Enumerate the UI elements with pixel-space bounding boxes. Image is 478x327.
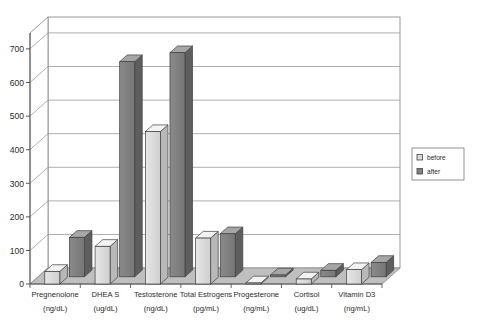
bar-chart-3d: 0 100 200 300 400 500 600 700 Pregnenolo… bbox=[0, 0, 478, 327]
x-tick-label-name: Progesterone bbox=[233, 290, 279, 299]
x-tick-marks bbox=[30, 284, 382, 288]
bar-front-face bbox=[95, 246, 110, 284]
bar-front-face bbox=[271, 275, 286, 277]
legend[interactable]: before after bbox=[412, 148, 464, 180]
bar-front-face bbox=[296, 279, 311, 284]
x-tick-label-unit: (pg/mL) bbox=[193, 304, 220, 313]
bar-front-face bbox=[196, 238, 211, 284]
bar-side-face bbox=[185, 46, 193, 277]
y-tick-label: 400 bbox=[10, 145, 25, 155]
y-tick-label: 100 bbox=[10, 246, 25, 256]
left-wall bbox=[30, 17, 48, 284]
y-tick-label: 0 bbox=[19, 279, 24, 289]
chart-container: 0 100 200 300 400 500 600 700 Pregnenolo… bbox=[0, 0, 478, 327]
x-axis-labels: Pregnenolone(ng/dL)DHEA S(ug/dL)Testoste… bbox=[31, 290, 375, 313]
bar-side-face bbox=[84, 231, 92, 277]
legend-label-after: after bbox=[427, 168, 441, 175]
bar-side-face bbox=[160, 125, 168, 284]
y-tick-marks bbox=[26, 49, 30, 284]
x-tick-label-unit: (ng/mL) bbox=[243, 304, 270, 313]
bar-front-face bbox=[321, 270, 336, 276]
bar-front-face bbox=[69, 237, 84, 276]
y-tick-label: 700 bbox=[10, 44, 25, 54]
y-tick-label: 200 bbox=[10, 212, 25, 222]
bar-side-face bbox=[211, 231, 219, 284]
y-tick-label: 300 bbox=[10, 179, 25, 189]
bar-front-face bbox=[347, 270, 362, 284]
x-tick-label-unit: (ug/dL) bbox=[295, 304, 320, 313]
bar-front-face bbox=[170, 53, 185, 277]
bar-front-face bbox=[246, 283, 261, 284]
bar-front-face bbox=[45, 271, 60, 284]
x-tick-label-unit: (ng/dL) bbox=[43, 304, 68, 313]
legend-swatch-before bbox=[417, 155, 423, 161]
bar-front-face bbox=[220, 234, 235, 277]
bar-front-face bbox=[145, 132, 160, 284]
x-tick-label-name: Testosterone bbox=[134, 290, 177, 299]
bar-side-face bbox=[110, 240, 118, 284]
legend-swatch-after bbox=[417, 169, 423, 175]
x-tick-label-unit: (ng/dL) bbox=[144, 304, 169, 313]
x-tick-label-name: Vitamin D3 bbox=[338, 290, 375, 299]
bar-side-face bbox=[235, 227, 243, 277]
legend-item-before[interactable]: before bbox=[417, 154, 446, 161]
x-tick-label-name: Total Estrogens bbox=[180, 290, 233, 299]
x-tick-label-name: Pregnenolone bbox=[31, 290, 78, 299]
legend-label-before: before bbox=[427, 154, 446, 161]
x-tick-label-name: Cortisol bbox=[294, 290, 320, 299]
legend-item-after[interactable]: after bbox=[417, 168, 441, 175]
x-tick-label-unit: (ng/mL) bbox=[344, 304, 371, 313]
y-axis-labels: 0 100 200 300 400 500 600 700 bbox=[10, 44, 25, 289]
x-tick-label-name: DHEA S bbox=[91, 290, 119, 299]
y-tick-label: 500 bbox=[10, 111, 25, 121]
y-tick-label: 600 bbox=[10, 78, 25, 88]
bar-front-face bbox=[371, 262, 386, 276]
x-tick-label-unit: (ug/dL) bbox=[93, 304, 118, 313]
bar-front-face bbox=[120, 62, 135, 277]
bar-side-face bbox=[135, 55, 143, 277]
